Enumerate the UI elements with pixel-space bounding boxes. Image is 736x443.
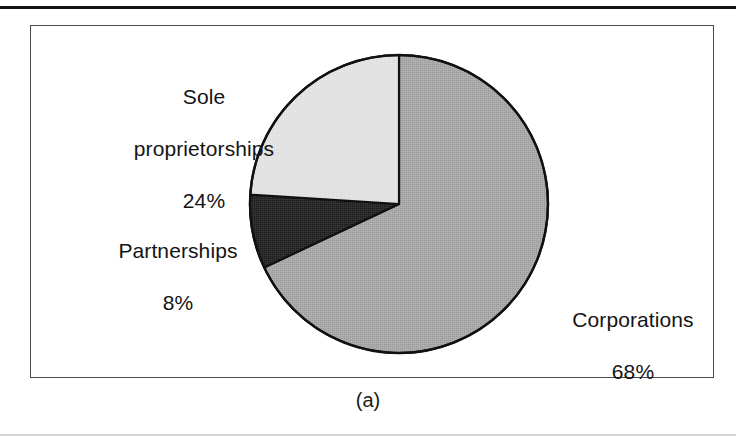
pie-label-corporations-name: Corporations xyxy=(540,307,726,333)
pie-label-corporations-percent: 68% xyxy=(540,359,726,385)
pie-label-partnerships: Partnerships 8% xyxy=(80,212,276,342)
pie-label-partnerships-percent: 8% xyxy=(80,290,276,316)
figure-caption: (a) xyxy=(0,389,736,412)
pie-label-sole-line2: proprietorships xyxy=(104,136,304,162)
bottom-horizontal-rule xyxy=(0,434,736,436)
figure-page: Sole proprietorships 24% Partnerships 8%… xyxy=(0,0,736,443)
pie-label-partnerships-name: Partnerships xyxy=(80,238,276,264)
pie-label-sole-line1: Sole xyxy=(104,84,304,110)
top-horizontal-rule xyxy=(0,6,736,9)
pie-label-sole-percent: 24% xyxy=(104,188,304,214)
